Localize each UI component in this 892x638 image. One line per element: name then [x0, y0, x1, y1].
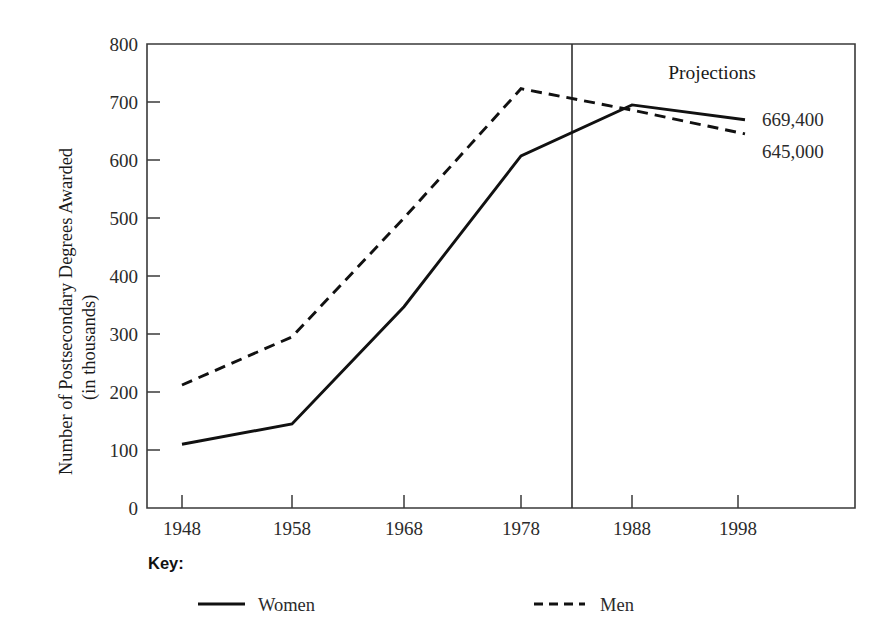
y-tick-label-100: 100 — [110, 440, 139, 461]
legend-item-men[interactable]: Men — [534, 595, 634, 615]
y-tick-label-800: 800 — [110, 34, 139, 55]
y-axis-title-line1: Number of Postsecondary Degrees Awarded — [56, 147, 76, 475]
x-tick-label-1978: 1978 — [502, 518, 540, 539]
x-tick-label-1968: 1968 — [385, 518, 423, 539]
legend-label-men: Men — [600, 595, 634, 615]
y-axis-title: Number of Postsecondary Degrees Awarded … — [56, 147, 100, 475]
series-women — [182, 105, 745, 444]
plot-frame — [147, 44, 855, 508]
x-tick-label-1948: 1948 — [163, 518, 201, 539]
legend-label-women: Women — [258, 595, 315, 615]
x-axis-tick-labels: 1948 1958 1968 1978 1988 1998 — [163, 518, 757, 539]
chart-figure: 800 700 600 500 400 300 200 100 0 Number… — [0, 0, 892, 638]
y-axis-tick-labels: 800 700 600 500 400 300 200 100 0 — [110, 34, 139, 519]
end-value-annotations: 669,400 645,000 — [762, 109, 824, 162]
y-axis-ticks — [147, 102, 160, 450]
x-tick-label-1998: 1998 — [719, 518, 757, 539]
women-end-value-label: 669,400 — [762, 109, 824, 130]
x-tick-label-1988: 1988 — [613, 518, 651, 539]
men-end-value-label: 645,000 — [762, 141, 824, 162]
legend-item-women[interactable]: Women — [198, 595, 315, 615]
projections-label: Projections — [668, 62, 756, 83]
x-axis-ticks — [182, 495, 738, 508]
y-tick-label-500: 500 — [110, 208, 139, 229]
y-tick-label-200: 200 — [110, 382, 139, 403]
y-tick-label-0: 0 — [129, 498, 139, 519]
series-men — [182, 89, 745, 385]
chart-legend: Key: Women Men — [148, 554, 634, 615]
y-tick-label-700: 700 — [110, 92, 139, 113]
y-tick-label-300: 300 — [110, 324, 139, 345]
line-chart: 800 700 600 500 400 300 200 100 0 Number… — [0, 0, 892, 638]
legend-title: Key: — [148, 554, 184, 572]
y-tick-label-600: 600 — [110, 150, 139, 171]
y-tick-label-400: 400 — [110, 266, 139, 287]
y-axis-title-line2: (in thousands) — [79, 295, 100, 400]
x-tick-label-1958: 1958 — [273, 518, 311, 539]
